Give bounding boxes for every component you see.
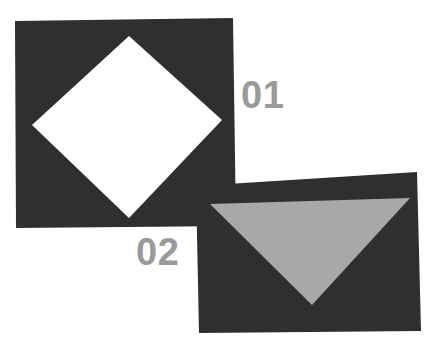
panel-02-label: 02 (136, 231, 179, 273)
panel-02-group[interactable] (196, 172, 421, 333)
geometric-diagram: 01 02 (0, 0, 439, 350)
panel-01-label: 01 (241, 74, 284, 116)
diagram-canvas: 01 02 (0, 0, 439, 350)
